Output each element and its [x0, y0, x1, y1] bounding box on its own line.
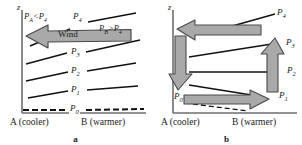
x-right-label-b: B (warmer): [232, 117, 276, 127]
panel-a-axes: [22, 10, 146, 113]
panel-a: z PA<P4 PB>P4 Wind P4 P3 P2 P1 P0 A (coo…: [0, 0, 151, 145]
figure-root: z PA<P4 PB>P4 Wind P4 P3 P2 P1 P0 A (coo…: [0, 0, 302, 145]
x-left-label-a: A (cooler): [10, 117, 49, 127]
isobar-p0-a: [23, 109, 144, 110]
isobar-label-p0-b: P0: [173, 92, 184, 104]
isobar-label-p4-a: P4: [72, 12, 83, 24]
isobar-p3-b: [189, 44, 272, 57]
panel-b-caption: b: [151, 134, 302, 144]
isobar-label-p3-b: P3: [285, 38, 296, 50]
isobar-label-p3-a: P3: [70, 47, 81, 59]
isobar-p2-a: [26, 63, 136, 81]
isobar-label-p2-b: P2: [286, 66, 297, 78]
pressure-right-annotation-a: PB>P4: [99, 23, 122, 35]
circulation-bottom-right-arrow-b: [184, 90, 269, 109]
panel-a-caption: a: [0, 134, 151, 144]
z-axis-label-a: z: [17, 3, 20, 12]
wind-arrow-label: Wind: [58, 29, 78, 39]
isobar-p1-a: [28, 86, 138, 98]
isobar-label-p2-a: P2: [70, 66, 81, 78]
panel-b: z P4 P3 P2 P1 P0 A (cooler) B (warmer) b: [151, 0, 302, 145]
circulation-right-up-arrow-b: [261, 38, 284, 92]
isobar-label-p1-b: P1: [278, 91, 289, 103]
x-left-label-b: A (cooler): [161, 117, 200, 127]
pressure-left-annotation-a: PA<P4: [24, 11, 47, 23]
isobar-label-p0-a: P0: [69, 104, 80, 116]
x-right-label-a: B (warmer): [81, 117, 125, 127]
isobar-label-p1-a: P1: [70, 85, 81, 97]
circulation-top-left-arrow-b: [177, 20, 261, 40]
z-axis-label-b: z: [168, 3, 171, 12]
isobar-label-p4-b: P4: [276, 8, 287, 20]
